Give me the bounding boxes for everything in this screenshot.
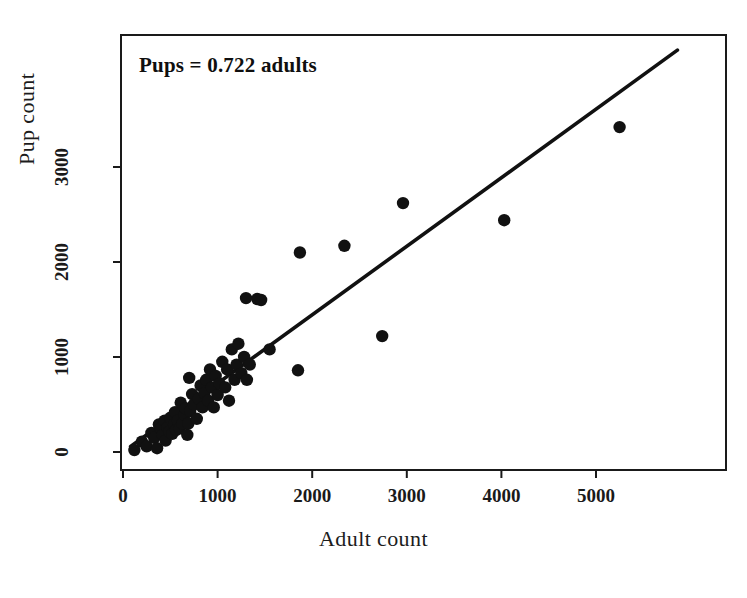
data-point (294, 246, 306, 258)
x-axis-ticks (123, 470, 596, 478)
plot-canvas (0, 0, 747, 598)
y-axis-ticks (113, 167, 121, 452)
data-point (498, 214, 510, 226)
x-tick-label: 5000 (577, 485, 615, 507)
data-point (376, 330, 388, 342)
x-tick-label: 4000 (482, 485, 520, 507)
data-point (397, 197, 409, 209)
data-point (232, 338, 244, 350)
data-point (191, 413, 203, 425)
data-point (240, 292, 252, 304)
x-tick-label: 3000 (388, 485, 426, 507)
y-axis-label: Pup count (14, 73, 40, 165)
y-tick-label: 1000 (51, 338, 73, 376)
data-point (338, 240, 350, 252)
data-point (208, 401, 220, 413)
y-tick-label: 0 (51, 447, 73, 457)
x-tick-label: 2000 (293, 485, 331, 507)
equation-annotation: Pups = 0.722 adults (139, 53, 317, 78)
data-point (241, 374, 253, 386)
data-point (183, 372, 195, 384)
data-point (263, 343, 275, 355)
data-point (255, 294, 267, 306)
y-tick-label: 2000 (51, 243, 73, 281)
x-tick-label: 1000 (199, 485, 237, 507)
scatter-plot-figure: Pups = 0.722 adults 01000200030004000500… (0, 0, 747, 598)
x-axis-label: Adult count (0, 526, 747, 552)
data-point (244, 358, 256, 370)
y-tick-label: 3000 (51, 148, 73, 186)
data-point (223, 395, 235, 407)
x-tick-label: 0 (118, 485, 128, 507)
data-point (292, 364, 304, 376)
data-point (613, 121, 625, 133)
data-point (181, 429, 193, 441)
